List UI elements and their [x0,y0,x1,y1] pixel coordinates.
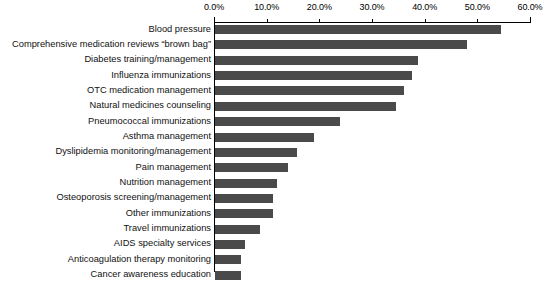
bar [215,148,297,157]
bar [215,225,260,234]
bar [215,117,340,126]
category-label: Anticoagulation therapy monitoring [68,253,211,266]
bar-row: Natural medicines counseling [0,99,560,114]
bar-row: Comprehensive medication reviews “brown … [0,38,560,53]
bar [215,102,396,111]
bar-row: OTC medication management [0,84,560,99]
category-label: Pain management [136,161,211,174]
bar [215,271,241,280]
bar-row: Influenza immunizations [0,69,560,84]
bar [215,86,404,95]
x-axis-tick-label: 30.0% [359,1,384,13]
bar-row: AIDS specialty services [0,237,560,252]
bar-row: Dyslipidemia monitoring/management [0,145,560,160]
category-label: Influenza immunizations [111,69,211,82]
bar [215,240,245,249]
bar [215,179,277,188]
x-axis-tick-mark [319,19,320,23]
x-axis-tick-mark [425,19,426,23]
category-label: Cancer awareness education [91,268,211,281]
bar-row: Pain management [0,161,560,176]
x-axis-tick-label: 60.0% [517,1,542,13]
x-axis-tick-labels: 0.0%10.0%20.0%30.0%40.0%50.0%60.0% [0,1,560,17]
bar-row: Nutrition management [0,176,560,191]
bar-row: Anticoagulation therapy monitoring [0,253,560,268]
category-label: Travel immunizations [124,222,212,235]
bar-row: Cancer awareness education [0,268,560,283]
category-label: Pneumococcal immunizations [88,115,211,128]
bar-rows: Blood pressureComprehensive medication r… [0,22,560,272]
bar [215,56,418,65]
bar [215,25,501,34]
category-label: Asthma management [123,130,211,143]
bar [215,194,273,203]
bar-row: Asthma management [0,130,560,145]
bar-row: Other immunizations [0,207,560,222]
bar [215,255,241,264]
category-label: Other immunizations [126,207,211,220]
bar [215,71,412,80]
bar-row: Pneumococcal immunizations [0,115,560,130]
x-axis-tick-mark [477,19,478,23]
x-axis-tick-mark [372,19,373,23]
bar [215,133,314,142]
category-label: Comprehensive medication reviews “brown … [12,38,211,51]
category-label: OTC medication management [87,84,211,97]
bar [215,209,273,218]
category-label: AIDS specialty services [114,237,211,250]
x-axis-tick-label: 50.0% [465,1,490,13]
bar [215,163,288,172]
category-label: Osteoporosis screening/management [56,191,211,204]
x-axis-tick-label: 0.0% [204,1,224,13]
category-label: Nutrition management [120,176,211,189]
x-axis-tick-label: 20.0% [307,1,332,13]
x-axis-tick-label: 10.0% [254,1,279,13]
x-axis-tick-mark [267,19,268,23]
x-axis-tick-label: 40.0% [412,1,437,13]
bar-row: Osteoporosis screening/management [0,191,560,206]
category-label: Natural medicines counseling [90,99,211,112]
category-label: Blood pressure [148,23,211,36]
category-label: Diabetes training/management [84,53,211,66]
bar-row: Travel immunizations [0,222,560,237]
bar-row: Blood pressure [0,23,560,38]
category-label: Dyslipidemia monitoring/management [55,145,211,158]
bar-row: Diabetes training/management [0,53,560,68]
bar [215,40,467,49]
